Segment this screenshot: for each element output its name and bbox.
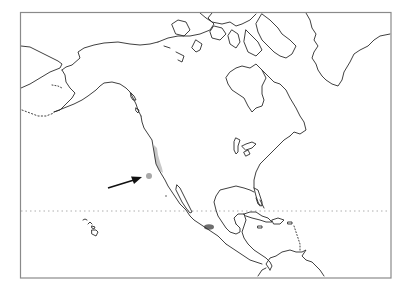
map-canvas [0, 0, 396, 282]
range-map [0, 0, 396, 282]
range-mexico [204, 224, 214, 230]
arrow-icon [108, 177, 142, 189]
map-frame [21, 13, 392, 279]
offshore-occurrence-point [146, 173, 152, 179]
coastlines [21, 13, 390, 276]
